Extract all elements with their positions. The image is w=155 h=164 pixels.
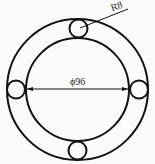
small-circle-left — [7, 81, 25, 99]
small-circle-top — [70, 20, 88, 38]
ring-drawing: ϕ96 R8 — [0, 0, 155, 164]
small-circle-right — [130, 81, 148, 99]
small-circle-bottom — [69, 142, 87, 160]
diameter-label: ϕ96 — [70, 76, 85, 87]
